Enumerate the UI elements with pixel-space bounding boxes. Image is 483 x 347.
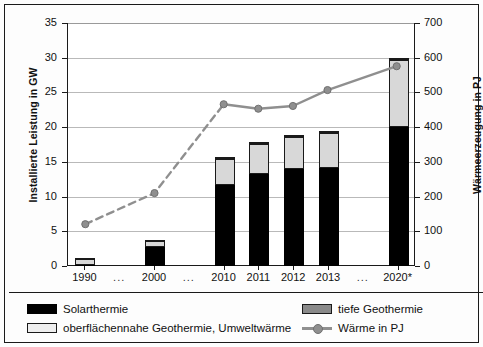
waerme-line-dashed-segment — [85, 104, 223, 224]
chart-legend: Solarthermietiefe Geothermieoberflächenn… — [9, 292, 483, 347]
x-axis-tick-label: 2013 — [316, 271, 340, 283]
y-axis-left-tick-label: 0 — [23, 260, 57, 271]
y-axis-right-tick-label: 300 — [424, 156, 464, 167]
waerme-line-marker — [255, 105, 262, 112]
y-axis-tick — [415, 23, 420, 24]
plot-area — [67, 23, 415, 266]
y-axis-right-title: Wärmeerzeugung in PJ — [471, 55, 483, 215]
x-axis-tick-label: 2010 — [211, 271, 235, 283]
legend-swatch-light-gray-swatch — [27, 323, 57, 333]
x-axis-tick — [293, 266, 294, 270]
x-axis-gap-label: ... — [183, 271, 195, 283]
y-axis-left-tick-label: 10 — [23, 191, 57, 202]
waerme-line-marker — [151, 190, 158, 197]
x-axis-tick — [154, 266, 155, 270]
y-axis-left-tick-label: 30 — [23, 52, 57, 63]
legend-item-label: oberflächennahe Geothermie, Umweltwärme — [63, 322, 291, 334]
y-axis-left-tick-label: 20 — [23, 121, 57, 132]
y-axis-right-tick-label: 0 — [424, 260, 464, 271]
legend-swatch-line-with-dot-marker — [302, 322, 332, 334]
y-axis-left-tick-label: 25 — [23, 86, 57, 97]
x-axis-gap-label: ... — [357, 271, 369, 283]
y-axis-tick — [415, 92, 420, 93]
y-axis-right-tick-label: 600 — [424, 52, 464, 63]
legend-swatch-solid-black-swatch — [27, 304, 57, 314]
figure-frame: Installierte Leistung in GW Wärmeerzeugu… — [4, 4, 479, 343]
y-axis-tick — [62, 266, 67, 267]
waerme-line-marker — [324, 86, 331, 93]
x-axis-gap-label: ... — [113, 271, 125, 283]
legend-item[interactable]: Solarthermie — [27, 303, 128, 315]
y-axis-right-tick-label: 100 — [424, 225, 464, 236]
legend-item[interactable]: Wärme in PJ — [302, 322, 404, 334]
y-axis-left-tick-label: 35 — [23, 17, 57, 28]
waerme-line-marker — [82, 221, 89, 228]
legend-item-label: tiefe Geothermie — [338, 303, 423, 315]
x-axis-tick — [398, 266, 399, 270]
x-axis-tick — [328, 266, 329, 270]
x-axis-tick-label: 1990 — [72, 271, 96, 283]
y-axis-tick — [415, 127, 420, 128]
y-axis-tick — [415, 266, 420, 267]
y-axis-right-tick-label: 200 — [424, 191, 464, 202]
y-axis-left-tick-label: 15 — [23, 156, 57, 167]
y-axis-right-tick-label: 400 — [424, 121, 464, 132]
y-axis-tick — [415, 197, 420, 198]
x-axis-tick-label: 2012 — [281, 271, 305, 283]
waerme-line-solid-segment — [224, 66, 397, 109]
legend-item-label: Solarthermie — [63, 303, 128, 315]
x-axis-tick-label: 2020* — [383, 271, 412, 283]
legend-item[interactable]: oberflächennahe Geothermie, Umweltwärme — [27, 322, 291, 334]
line-series-layer — [68, 23, 414, 265]
x-axis-tick-label: 2000 — [142, 271, 166, 283]
waerme-line-marker — [393, 63, 400, 70]
x-axis-tick-label: 2011 — [247, 271, 271, 283]
x-axis-tick — [224, 266, 225, 270]
legend-item-label: Wärme in PJ — [338, 322, 404, 334]
y-axis-right-tick-label: 700 — [424, 17, 464, 28]
y-axis-tick — [415, 162, 420, 163]
chart-figure: Installierte Leistung in GW Wärmeerzeugu… — [0, 0, 483, 347]
legend-swatch-solid-gray-swatch — [302, 304, 332, 314]
y-axis-right-tick-label: 500 — [424, 86, 464, 97]
y-axis-tick — [415, 58, 420, 59]
waerme-line-marker — [289, 102, 296, 109]
legend-item[interactable]: tiefe Geothermie — [302, 303, 423, 315]
x-axis-tick — [258, 266, 259, 270]
x-axis-tick — [84, 266, 85, 270]
y-axis-tick — [415, 231, 420, 232]
y-axis-left-tick-label: 5 — [23, 225, 57, 236]
waerme-line-marker — [220, 101, 227, 108]
